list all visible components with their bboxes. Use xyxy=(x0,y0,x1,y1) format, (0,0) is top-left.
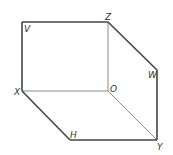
label-h: H xyxy=(70,130,77,140)
label-v: V xyxy=(24,24,31,34)
edge-z-w xyxy=(108,22,157,70)
label-y: Y xyxy=(157,142,164,152)
edge-x-h xyxy=(22,91,70,140)
label-z: Z xyxy=(104,12,112,22)
label-o: O xyxy=(110,84,117,94)
label-w: W xyxy=(148,70,158,80)
cuboid-diagram: V Z W X O H Y xyxy=(0,0,173,155)
label-x: X xyxy=(13,87,21,97)
edge-o-y xyxy=(108,91,157,140)
